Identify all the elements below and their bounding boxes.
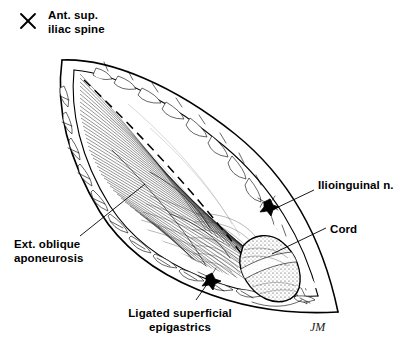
label-ext-oblique-aponeurosis-line1: Ext. oblique: [14, 238, 80, 250]
label-ilioinguinal-nerve: Ilioinguinal n.: [318, 179, 394, 191]
label-ant-sup-iliac-spine-line2: iliac spine: [48, 23, 105, 35]
label-ant-sup-iliac-spine-line1: Ant. sup.: [48, 9, 98, 21]
artist-signature: JM: [310, 320, 326, 334]
anatomical-illustration: Ant. sup. iliac spine Ext. oblique apone…: [0, 0, 406, 349]
figure-root: Ant. sup. iliac spine Ext. oblique apone…: [0, 0, 406, 349]
label-ligated-superficial-epigastrics-line2: epigastrics: [149, 321, 211, 333]
label-ext-oblique-aponeurosis-line2: aponeurosis: [14, 252, 83, 264]
label-cord: Cord: [330, 223, 357, 235]
label-ligated-superficial-epigastrics-line1: Ligated superficial: [128, 307, 232, 319]
